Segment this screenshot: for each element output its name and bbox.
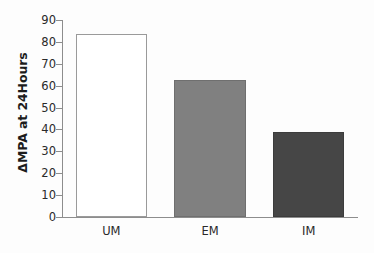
y-tick-label: 30 xyxy=(41,144,56,158)
y-tick-mark xyxy=(56,20,62,21)
bar-im xyxy=(273,132,344,217)
y-tick-label: 70 xyxy=(41,57,56,71)
y-tick-label: 80 xyxy=(41,35,56,49)
y-tick-label: 90 xyxy=(41,13,56,27)
x-category-label-um: UM xyxy=(102,224,120,238)
bar-em xyxy=(174,80,245,217)
x-axis-category-labels: UMEMIM xyxy=(62,224,358,244)
x-category-label-im: IM xyxy=(302,224,315,238)
y-tick-mark xyxy=(56,195,62,196)
plot-area xyxy=(62,20,358,217)
y-tick-mark xyxy=(56,151,62,152)
y-tick-mark xyxy=(56,217,62,218)
y-tick-mark xyxy=(56,129,62,130)
y-tick-mark xyxy=(56,42,62,43)
bar-um xyxy=(76,34,147,217)
y-axis-label: ΔMPA at 24Hours xyxy=(15,52,30,172)
y-tick-mark xyxy=(56,86,62,87)
y-tick-label: 50 xyxy=(41,101,56,115)
y-tick-mark xyxy=(56,173,62,174)
bar-chart-figure: ΔMPA at 24Hours 0102030405060708090 UMEM… xyxy=(0,0,374,253)
y-tick-label: 20 xyxy=(41,166,56,180)
y-tick-label: 10 xyxy=(41,188,56,202)
y-tick-label: 60 xyxy=(41,79,56,93)
y-axis-tick-labels: 0102030405060708090 xyxy=(29,20,56,217)
y-tick-mark xyxy=(56,64,62,65)
x-axis-line xyxy=(62,217,358,218)
y-tick-label: 0 xyxy=(49,210,56,224)
y-tick-label: 40 xyxy=(41,122,56,136)
y-tick-mark xyxy=(56,108,62,109)
x-category-label-em: EM xyxy=(201,224,218,238)
